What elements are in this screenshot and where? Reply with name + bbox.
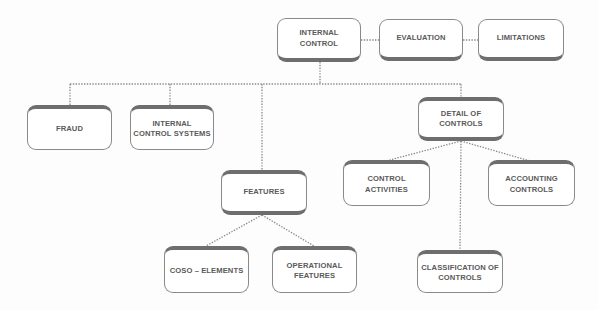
node-fraud: FRAUD — [27, 105, 112, 150]
connector-to-coso-elements — [206, 215, 262, 246]
connector-to-classification-of-controls — [460, 141, 461, 250]
connector-to-control-activities — [386, 141, 461, 161]
node-features: FEATURES — [221, 170, 307, 215]
node-label: DETAIL OF CONTROLS — [439, 109, 482, 130]
connector-to-operational-features — [262, 215, 314, 246]
node-label: ACCOUNTING CONTROLS — [505, 174, 557, 195]
node-operational-features: OPERATIONAL FEATURES — [272, 246, 357, 293]
node-label: FRAUD — [56, 124, 83, 134]
node-evaluation: EVALUATION — [379, 19, 463, 61]
node-label: EVALUATION — [396, 33, 445, 43]
node-control-activities: CONTROL ACTIVITIES — [343, 160, 430, 206]
node-label: INTERNAL CONTROL — [299, 28, 338, 49]
node-label: FEATURES — [243, 187, 284, 197]
node-label: OPERATIONAL FEATURES — [287, 261, 343, 282]
node-label: COSO – ELEMENTS — [170, 266, 244, 276]
node-label: CLASSIFICATION OF CONTROLS — [421, 263, 499, 284]
node-accounting-controls: ACCOUNTING CONTROLS — [488, 160, 575, 206]
concept-map-diagram: INTERNAL CONTROL EVALUATION LIMITATIONS … — [0, 0, 599, 310]
node-limitations: LIMITATIONS — [478, 19, 564, 61]
node-label: CONTROL ACTIVITIES — [365, 174, 408, 195]
node-label: INTERNAL CONTROL SYSTEMS — [133, 119, 210, 140]
node-coso-elements: COSO – ELEMENTS — [164, 246, 249, 293]
connector-to-accounting-controls — [461, 141, 530, 161]
node-detail-of-controls: DETAIL OF CONTROLS — [418, 97, 504, 141]
node-internal-control-systems: INTERNAL CONTROL SYSTEMS — [130, 105, 214, 150]
node-classification-of-controls: CLASSIFICATION OF CONTROLS — [417, 250, 503, 293]
node-internal-control: INTERNAL CONTROL — [277, 18, 361, 62]
node-label: LIMITATIONS — [497, 33, 545, 43]
